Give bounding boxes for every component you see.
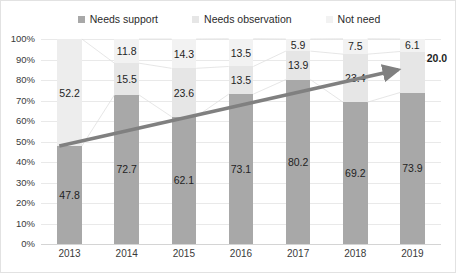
y-axis-tick-label: 60% [1,116,35,126]
legend-swatch-icon-needs-support [78,16,85,23]
x-axis-tick-label: 2013 [41,248,98,260]
legend-item-needs-support[interactable]: Needs support [78,14,158,25]
chart-legend: Needs support Needs observation Not need [1,11,456,27]
y-axis: 100%90%80%70%60%50%40%30%20%10%0% [1,39,39,244]
legend-item-needs-observation[interactable]: Needs observation [192,14,292,25]
x-axis-tick-label: 2017 [270,248,327,260]
legend-label-not-need: Not need [338,14,381,25]
x-axis: 2013201420152016201720182019 [41,248,441,266]
y-axis-tick-label: 50% [1,137,35,147]
y-axis-tick-label: 70% [1,96,35,106]
legend-label-needs-observation: Needs observation [204,14,292,25]
y-axis-tick-label: 80% [1,75,35,85]
y-axis-tick-label: 100% [1,34,35,44]
y-axis-tick-label: 40% [1,157,35,167]
y-axis-tick-label: 20% [1,198,35,208]
legend-swatch-icon-not-need [326,16,333,23]
series-connector-lines [41,39,441,244]
y-axis-tick-label: 90% [1,55,35,65]
legend-label-needs-support: Needs support [90,14,158,25]
x-axis-tick-label: 2019 [384,248,441,260]
y-axis-tick-label: 30% [1,178,35,188]
legend-swatch-icon-needs-observation [192,16,199,23]
chart-container: Needs support Needs observation Not need… [0,0,456,273]
x-axis-tick-label: 2014 [98,248,155,260]
x-axis-tick-label: 2015 [155,248,212,260]
legend-item-not-need[interactable]: Not need [326,14,381,25]
y-axis-tick-label: 10% [1,219,35,229]
plot-area: 47.852.272.715.511.862.123.614.373.113.5… [41,39,441,244]
x-axis-tick-label: 2018 [327,248,384,260]
x-axis-tick-label: 2016 [212,248,269,260]
gridline [41,244,441,245]
y-axis-tick-label: 0% [1,239,35,249]
